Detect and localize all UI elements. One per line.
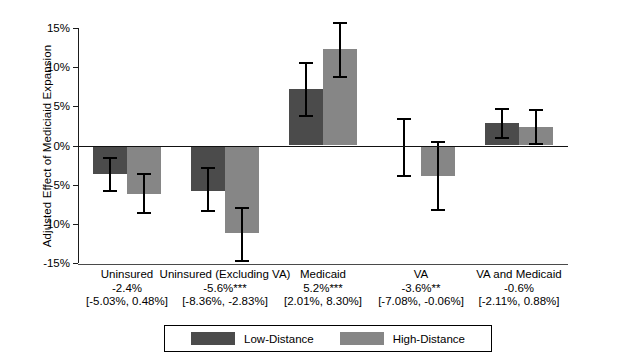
legend-label-low-distance: Low-Distance — [244, 333, 314, 345]
error-bar-line — [535, 110, 537, 144]
y-tick — [73, 28, 78, 29]
error-bar-cap-upper — [529, 109, 543, 111]
error-bar-line — [339, 23, 341, 77]
error-bar-cap-lower — [103, 190, 117, 192]
error-bar-cap-lower — [495, 137, 509, 139]
error-bar-cap-lower — [235, 260, 249, 262]
error-bar-line — [241, 208, 243, 260]
y-tick — [73, 106, 78, 107]
category-interval: [-2.11%, 0.88%] — [429, 295, 609, 309]
error-bar-cap-lower — [201, 210, 215, 212]
category-estimate: -0.6% — [429, 282, 609, 296]
x-axis-line — [78, 264, 568, 265]
legend-item-low-distance: Low-Distance — [191, 332, 314, 345]
legend-label-high-distance: High-Distance — [393, 333, 465, 345]
category-name: VA and Medicaid — [429, 268, 609, 282]
error-bar-cap-upper — [299, 62, 313, 64]
legend-swatch-low-distance — [191, 332, 235, 345]
error-bar-cap-upper — [103, 157, 117, 159]
y-tick — [73, 67, 78, 68]
y-tick — [73, 224, 78, 225]
chart-legend: Low-Distance High-Distance — [164, 325, 492, 352]
error-bar-cap-upper — [495, 108, 509, 110]
error-bar-line — [437, 142, 439, 210]
error-bar-cap-upper — [333, 22, 347, 24]
error-bar-cap-lower — [299, 115, 313, 117]
error-bar-cap-upper — [137, 173, 151, 175]
error-bar-line — [143, 174, 145, 213]
zero-baseline — [78, 146, 568, 148]
error-bar-cap-upper — [235, 207, 249, 209]
y-tick-label: -5% — [30, 179, 70, 191]
error-bar-line — [501, 109, 503, 138]
error-bar-line — [305, 63, 307, 115]
error-bar-line — [403, 119, 405, 176]
error-bar-cap-lower — [137, 212, 151, 214]
error-bar-cap-upper — [431, 141, 445, 143]
chart-figure: Adjusted Effect of Mediciaid Expansion 1… — [0, 0, 639, 358]
y-tick-label: 5% — [30, 100, 70, 112]
y-tick-label: 15% — [30, 22, 70, 34]
y-tick-label: 0% — [30, 140, 70, 152]
error-bar-cap-upper — [201, 167, 215, 169]
plot-area: 15%10%5%0%-5%-10%-15% — [78, 28, 568, 263]
y-tick — [73, 185, 78, 186]
y-tick-label: 10% — [30, 61, 70, 73]
error-bar-cap-lower — [333, 76, 347, 78]
error-bar-line — [207, 168, 209, 210]
error-bar-cap-lower — [397, 175, 411, 177]
category-label-5: VA and Medicaid-0.6%[-2.11%, 0.88%] — [429, 268, 609, 309]
y-tick-label: -10% — [30, 218, 70, 230]
error-bar-cap-lower — [431, 209, 445, 211]
legend-item-high-distance: High-Distance — [340, 332, 465, 345]
error-bar-cap-upper — [397, 118, 411, 120]
legend-swatch-high-distance — [340, 332, 384, 345]
error-bar-line — [109, 158, 111, 191]
